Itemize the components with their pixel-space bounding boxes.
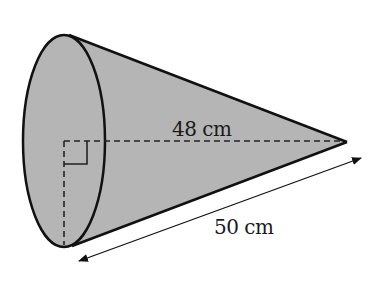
cone-diagram: 48 cm 50 cm (0, 0, 386, 282)
height-label: 48 cm (172, 119, 231, 139)
cone-drawing (0, 0, 386, 282)
slant-height-label: 50 cm (214, 217, 273, 237)
